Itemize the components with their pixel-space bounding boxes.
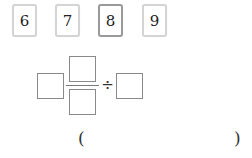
fraction-bar — [66, 85, 99, 86]
left-operand-box[interactable] — [37, 73, 64, 99]
numerator-box[interactable] — [69, 56, 96, 82]
number-card-7[interactable]: 7 — [55, 4, 80, 37]
open-paren: ( — [78, 128, 85, 148]
card-label: 9 — [150, 12, 160, 30]
card-label: 8 — [106, 12, 116, 30]
number-card-8[interactable]: 8 — [98, 4, 123, 37]
answer-field[interactable] — [90, 130, 230, 150]
right-operand-box[interactable] — [116, 73, 143, 99]
number-card-6[interactable]: 6 — [12, 4, 37, 37]
number-card-9[interactable]: 9 — [142, 4, 167, 37]
division-sign: ÷ — [100, 77, 115, 93]
card-label: 7 — [63, 12, 73, 30]
close-paren: ) — [234, 128, 241, 148]
card-label: 6 — [20, 12, 30, 30]
denominator-box[interactable] — [69, 89, 96, 115]
